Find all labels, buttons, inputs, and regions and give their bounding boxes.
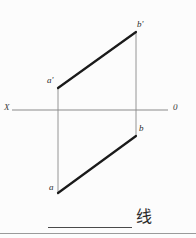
answer-blank-line[interactable]: [48, 227, 132, 228]
projection-diagram: [0, 0, 196, 238]
point-label-a: a: [49, 183, 54, 192]
point-label-a-prime: a': [47, 76, 53, 85]
point-label-b: b: [139, 124, 144, 133]
worksheet-page: b' a' b a X 0 线: [0, 0, 196, 238]
axis-label-origin: 0: [173, 103, 178, 112]
front-projection-segment: [58, 32, 136, 88]
page-bottom-rule: [0, 233, 196, 234]
answer-text: 线: [136, 209, 152, 225]
axis-label-x: X: [4, 103, 10, 112]
answer-row: 线: [44, 208, 192, 234]
point-label-b-prime: b': [137, 20, 143, 29]
top-projection-segment: [58, 136, 136, 193]
